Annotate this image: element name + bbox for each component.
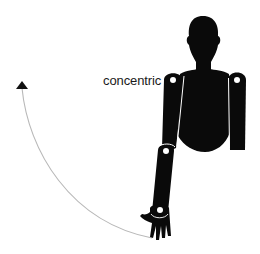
shoulder-joint-right xyxy=(234,77,240,83)
head xyxy=(187,16,221,70)
torso xyxy=(178,69,230,152)
elbow-joint xyxy=(163,148,169,154)
arrow-head-icon xyxy=(16,81,28,89)
forearm xyxy=(152,144,174,212)
wrist-joint xyxy=(157,207,163,213)
arm-right xyxy=(228,73,246,151)
shoulder-joint-left xyxy=(170,77,176,83)
figure-illustration xyxy=(0,0,260,254)
concentric-label: concentric xyxy=(103,73,161,89)
motion-arc xyxy=(22,88,152,238)
hand xyxy=(140,204,171,240)
diagram-canvas: concentric xyxy=(0,0,260,254)
